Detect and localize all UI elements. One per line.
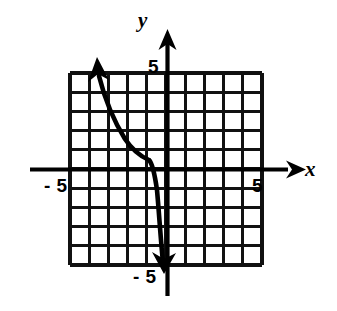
x-axis-arrowhead xyxy=(286,161,306,179)
coordinate-plane-svg xyxy=(0,0,337,311)
x-axis-tick-label-negative: - 5 xyxy=(44,176,68,195)
y-axis-label: y xyxy=(138,10,147,31)
x-axis-label: x xyxy=(305,159,316,180)
graph-figure: y x 5 - 5 5 - 5 xyxy=(0,0,337,311)
y-axis-tick-label-negative: - 5 xyxy=(133,267,157,286)
x-axis-tick-label-positive: 5 xyxy=(252,176,263,195)
curve-series xyxy=(88,57,176,274)
y-axis-tick-label-positive: 5 xyxy=(148,57,159,76)
